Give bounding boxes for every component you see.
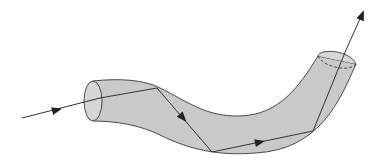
arrow-icon [51, 105, 63, 115]
arrow-icon [356, 9, 367, 21]
diagram-svg [0, 0, 385, 163]
fiber-body [93, 56, 356, 154]
optical-fiber-diagram [0, 0, 385, 163]
